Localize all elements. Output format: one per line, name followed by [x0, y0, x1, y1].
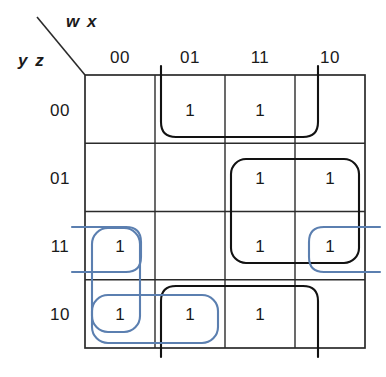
cell-r10-c01: 1 [155, 303, 225, 327]
cell-r11-c11: 1 [225, 235, 295, 259]
karnaugh-map-figure: w x y z 00 01 11 10 00 01 11 10 1 1 1 1 … [0, 0, 386, 377]
cell-r00-c11: 1 [225, 99, 295, 123]
cell-r11-c10: 1 [295, 235, 365, 259]
cell-r10-c11: 1 [225, 303, 295, 327]
cell-r01-c11: 1 [225, 167, 295, 191]
cell-r00-c01: 1 [155, 99, 225, 123]
cell-r01-c10: 1 [295, 167, 365, 191]
cell-r11-c00: 1 [85, 235, 155, 259]
cell-r10-c00: 1 [85, 303, 155, 327]
